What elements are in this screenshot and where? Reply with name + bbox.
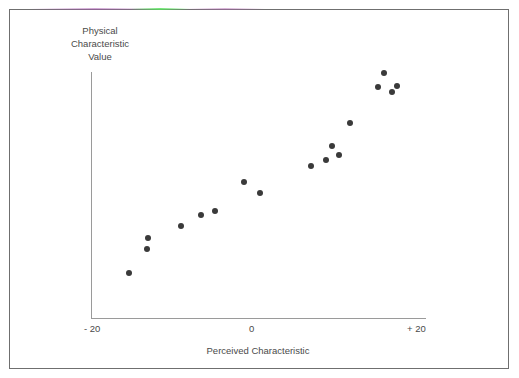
y-axis-title: Physical Characteristic Value: [60, 24, 140, 63]
data-point: [394, 83, 400, 89]
scanned-page: Physical Characteristic Value - 20 0 + 2…: [0, 0, 519, 378]
scatter-plot-figure: Physical Characteristic Value - 20 0 + 2…: [0, 0, 519, 378]
data-point: [212, 208, 218, 214]
data-point: [375, 84, 381, 90]
x-axis-title: Perceived Characteristic: [91, 345, 425, 356]
data-point: [178, 223, 184, 229]
data-point: [126, 270, 132, 276]
plot-area: [91, 72, 425, 318]
data-point: [336, 152, 342, 158]
data-point: [241, 179, 247, 185]
data-point: [198, 212, 204, 218]
x-axis-line: [91, 318, 426, 319]
data-point: [347, 120, 353, 126]
data-point: [323, 157, 329, 163]
x-tick-label-max: + 20: [407, 323, 426, 334]
x-tick-label-mid: 0: [249, 323, 254, 334]
data-point: [308, 163, 314, 169]
data-point: [145, 235, 151, 241]
data-point: [389, 89, 395, 95]
data-point: [144, 246, 150, 252]
data-point: [257, 190, 263, 196]
data-point: [329, 143, 335, 149]
data-point: [381, 70, 387, 76]
x-tick-label-min: - 20: [84, 323, 100, 334]
